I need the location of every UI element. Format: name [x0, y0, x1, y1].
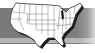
map-outline [10, 3, 82, 47]
us-map-icon [0, 0, 95, 53]
